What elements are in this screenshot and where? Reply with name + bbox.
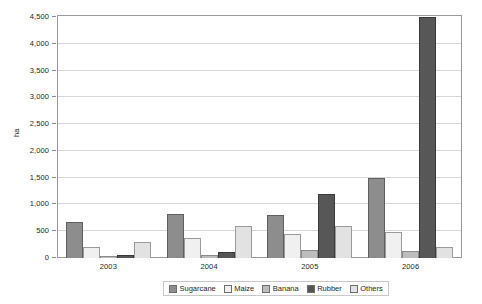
legend-swatch-icon <box>307 285 315 293</box>
bar <box>284 234 301 258</box>
bar <box>385 232 402 258</box>
bar <box>235 226 252 258</box>
y-axis-tick-label: 0 <box>45 253 49 262</box>
y-axis-tick-label: 1,500 <box>30 172 49 181</box>
y-axis-tick-labels: 05001,0001,5002,0002,5003,0003,5004,0004… <box>0 0 57 273</box>
bar <box>117 255 134 258</box>
y-axis-tick <box>52 16 56 17</box>
bar <box>201 255 218 258</box>
x-axis-tick-labels: 2003200420052006 <box>58 262 461 276</box>
y-axis-tick <box>52 230 56 231</box>
y-axis-tick-label: 2,500 <box>30 119 49 128</box>
bar-group <box>360 16 461 258</box>
bar <box>184 238 201 258</box>
x-axis-tick-label: 2005 <box>260 262 361 276</box>
legend-item[interactable]: Maize <box>224 284 255 293</box>
bar <box>100 256 117 258</box>
bar <box>83 247 100 258</box>
bar <box>368 178 385 258</box>
y-axis-tick-label: 500 <box>36 226 49 235</box>
y-axis-tick-label: 3,000 <box>30 92 49 101</box>
bar <box>436 247 453 258</box>
bar-group <box>260 16 361 258</box>
y-axis-tick <box>52 70 56 71</box>
legend-swatch-icon <box>224 285 232 293</box>
legend-item[interactable]: Banana <box>262 284 298 293</box>
legend: SugarcaneMaizeBananaRubberOthers <box>163 281 389 296</box>
bar-group <box>159 16 260 258</box>
bar <box>167 214 184 258</box>
bar-groups <box>58 16 461 258</box>
y-axis-tick <box>52 96 56 97</box>
bar <box>419 17 436 258</box>
legend-label: Banana <box>273 284 299 293</box>
legend-label: Maize <box>234 284 254 293</box>
y-axis-tick <box>52 177 56 178</box>
legend-swatch-icon <box>350 285 358 293</box>
x-axis-tick-label: 2003 <box>58 262 159 276</box>
bar <box>402 251 419 258</box>
bar-group <box>58 16 159 258</box>
bar <box>134 242 151 258</box>
bar <box>318 194 335 258</box>
x-axis-tick-label: 2004 <box>159 262 260 276</box>
legend-item[interactable]: Others <box>350 284 383 293</box>
bar-chart: ha 05001,0001,5002,0002,5003,0003,5004,0… <box>0 0 482 304</box>
bar <box>335 226 352 258</box>
legend-swatch-icon <box>262 285 270 293</box>
bar <box>66 222 83 258</box>
y-axis-tick-label: 4,000 <box>30 38 49 47</box>
x-axis-tick-label: 2006 <box>360 262 461 276</box>
y-axis-tick-label: 3,500 <box>30 65 49 74</box>
y-axis-tick <box>52 123 56 124</box>
legend-swatch-icon <box>169 285 177 293</box>
y-axis-tick <box>52 257 56 258</box>
legend-label: Sugarcane <box>180 284 216 293</box>
legend-label: Rubber <box>317 284 342 293</box>
bar <box>267 215 284 258</box>
y-axis-tick-label: 4,500 <box>30 12 49 21</box>
y-axis-tick <box>52 150 56 151</box>
legend-item[interactable]: Sugarcane <box>169 284 216 293</box>
legend-label: Others <box>360 284 383 293</box>
y-axis-tick <box>52 203 56 204</box>
legend-item[interactable]: Rubber <box>307 284 342 293</box>
y-axis-tick-label: 2,000 <box>30 145 49 154</box>
y-axis-tick-label: 1,000 <box>30 199 49 208</box>
y-axis-tick <box>52 43 56 44</box>
bar <box>218 252 235 258</box>
bar <box>301 250 318 258</box>
